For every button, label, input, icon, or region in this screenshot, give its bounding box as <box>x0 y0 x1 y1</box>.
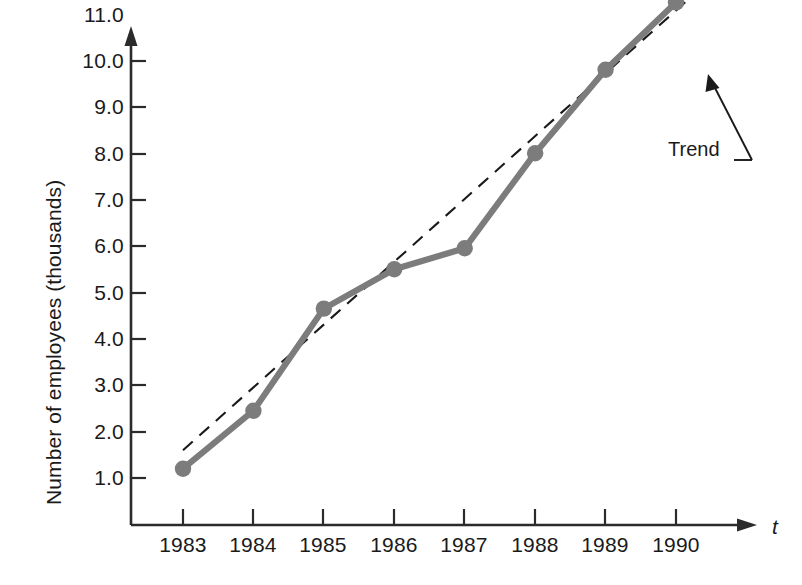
x-axis-ticks <box>183 509 676 525</box>
data-point-1985 <box>316 300 332 316</box>
data-point-1984 <box>245 403 261 419</box>
y-tick-label-5: 5.0 <box>72 281 124 305</box>
y-tick-label-1: 1.0 <box>72 466 124 490</box>
data-point-1989 <box>597 61 613 77</box>
y-tick-label-3: 3.0 <box>72 373 124 397</box>
trend-annotation-label: Trend <box>668 138 720 161</box>
x-tick-label-1985: 1985 <box>288 533 358 557</box>
x-tick-label-1983: 1983 <box>148 533 218 557</box>
data-point-1987 <box>457 240 473 256</box>
x-axis <box>131 519 757 532</box>
y-tick-label-7: 7.0 <box>72 188 124 212</box>
y-tick-label-2: 2.0 <box>72 420 124 444</box>
y-tick-label-11: 11.0 <box>62 3 124 27</box>
x-tick-label-1984: 1984 <box>218 533 288 557</box>
y-axis-arrow-icon <box>125 26 138 46</box>
employees-data-markers <box>175 0 684 477</box>
x-tick-label-1988: 1988 <box>500 533 570 557</box>
y-axis <box>125 26 138 525</box>
trend-line-series <box>183 0 701 450</box>
trend-annotation-leader <box>714 86 752 160</box>
y-tick-label-6: 6.0 <box>72 234 124 258</box>
x-tick-label-1990: 1990 <box>641 533 711 557</box>
chart-figure: 1.0 2.0 3.0 4.0 5.0 6.0 7.0 8.0 9.0 10.0… <box>0 0 802 585</box>
trend-arrow-icon <box>706 74 720 92</box>
y-tick-label-8: 8.0 <box>72 142 124 166</box>
y-axis-ticks <box>131 61 146 478</box>
y-tick-label-10: 10.0 <box>62 49 124 73</box>
y-axis-title: Number of employees (thousands) <box>42 180 66 505</box>
data-point-1983 <box>175 461 191 477</box>
x-tick-label-1986: 1986 <box>359 533 429 557</box>
data-point-1988 <box>527 145 543 161</box>
y-tick-label-4: 4.0 <box>72 327 124 351</box>
x-axis-title: t <box>772 515 778 539</box>
data-point-1986 <box>386 261 402 277</box>
x-tick-label-1989: 1989 <box>570 533 640 557</box>
x-axis-arrow-icon <box>737 519 757 532</box>
x-tick-label-1987: 1987 <box>429 533 499 557</box>
y-tick-label-9: 9.0 <box>72 95 124 119</box>
